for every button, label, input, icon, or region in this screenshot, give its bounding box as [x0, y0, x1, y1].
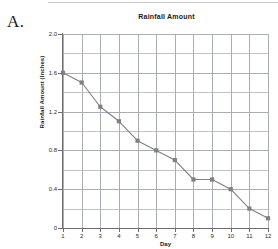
y-tick-label: 1.2 [17, 109, 57, 115]
y-tick-label: 1.6 [17, 70, 57, 76]
x-tick-mark [119, 229, 120, 232]
x-tick-label: 5 [131, 233, 145, 239]
x-tick-mark [82, 229, 83, 232]
data-point-marker [154, 148, 158, 152]
y-tick-mark [58, 228, 62, 229]
x-tick-mark [231, 229, 232, 232]
y-tick-mark [58, 34, 62, 35]
data-point-marker [210, 177, 214, 181]
y-tick-mark [58, 112, 62, 113]
data-point-marker [266, 216, 270, 220]
data-point-marker [247, 207, 251, 211]
x-tick-label: 1 [56, 233, 70, 239]
x-tick-mark [63, 229, 64, 232]
x-tick-label: 6 [149, 233, 163, 239]
series-layer [0, 0, 278, 249]
x-tick-mark [268, 229, 269, 232]
x-tick-mark [156, 229, 157, 232]
y-tick-mark [58, 189, 62, 190]
y-tick-label: 0.8 [17, 147, 57, 153]
x-tick-label: 7 [168, 233, 182, 239]
data-point-marker [80, 80, 84, 84]
data-point-marker [117, 119, 121, 123]
x-tick-mark [100, 229, 101, 232]
y-tick-label: 0 [17, 225, 57, 231]
data-point-marker [191, 177, 195, 181]
x-tick-mark [212, 229, 213, 232]
x-tick-mark [138, 229, 139, 232]
y-tick-label: 2.0 [17, 31, 57, 37]
x-tick-mark [193, 229, 194, 232]
y-tick-label: 0.4 [17, 186, 57, 192]
rainfall-line [63, 73, 268, 219]
y-tick-mark [58, 73, 62, 74]
x-tick-label: 9 [205, 233, 219, 239]
x-tick-label: 2 [75, 233, 89, 239]
x-tick-label: 3 [93, 233, 107, 239]
x-tick-label: 12 [261, 233, 275, 239]
x-tick-mark [175, 229, 176, 232]
data-point-marker [173, 158, 177, 162]
x-tick-mark [249, 229, 250, 232]
data-point-marker [229, 187, 233, 191]
x-tick-label: 11 [242, 233, 256, 239]
x-tick-label: 10 [224, 233, 238, 239]
x-tick-label: 4 [112, 233, 126, 239]
y-tick-mark [58, 150, 62, 151]
data-point-marker [135, 139, 139, 143]
x-tick-label: 8 [186, 233, 200, 239]
data-point-marker [98, 105, 102, 109]
